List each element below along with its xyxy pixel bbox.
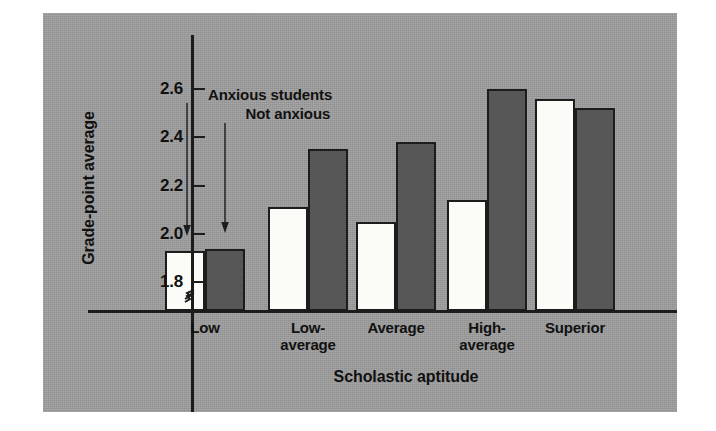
xtick-label-average-line1: Average: [346, 319, 446, 336]
bar-low-average-anxious: [268, 207, 308, 311]
xtick-label-low-average-line1: Low-: [258, 319, 358, 336]
legend: Anxious students Not anxious: [208, 85, 332, 123]
y-tick-label-2-0: 2.0: [139, 224, 183, 244]
bar-low-average-not-anxious: [308, 149, 348, 311]
leader-arrow-not-anxious-icon: [217, 123, 233, 235]
y-tick-label-2-4: 2.4: [139, 127, 183, 147]
y-tick-mark-2-4: [194, 136, 205, 138]
xtick-label-high-average-line1: High-: [437, 319, 537, 336]
y-tick-label-2-2: 2.2: [139, 176, 183, 196]
xtick-label-high-average: High- average: [437, 319, 537, 353]
x-axis-title: Scholastic aptitude: [191, 368, 621, 386]
y-tick-label-1-8: 1.8: [139, 272, 183, 292]
bar-superior-not-anxious: [575, 108, 615, 311]
chart-panel: Low Low- average Average High- average S…: [43, 13, 677, 412]
xtick-label-low-line1: Low: [155, 319, 255, 336]
bar-high-average-not-anxious: [487, 89, 527, 311]
y-axis-title: Grade-point average: [80, 98, 98, 278]
bar-group-container: [43, 13, 677, 412]
leader-arrow-anxious-icon: [179, 103, 195, 238]
xtick-label-average: Average: [346, 319, 446, 336]
y-tick-mark-1-8: [194, 281, 205, 283]
bar-average-not-anxious: [396, 142, 436, 311]
bar-average-anxious: [356, 222, 396, 311]
y-tick-label-2-6: 2.6: [139, 79, 183, 99]
chart-figure: Low Low- average Average High- average S…: [0, 0, 716, 431]
y-tick-mark-2-0: [194, 233, 205, 235]
xtick-label-high-average-line2: average: [437, 336, 537, 353]
y-tick-mark-2-2: [194, 185, 205, 187]
bar-low-not-anxious: [205, 249, 245, 312]
y-axis-break-icon: [183, 288, 203, 304]
y-tick-mark-2-6: [194, 88, 205, 90]
xtick-label-superior-line1: Superior: [525, 319, 625, 336]
legend-item-not-anxious: Not anxious: [208, 104, 332, 123]
x-axis-line: [88, 310, 677, 313]
xtick-label-low: Low: [155, 319, 255, 336]
xtick-label-low-average-line2: average: [258, 336, 358, 353]
xtick-label-low-average: Low- average: [258, 319, 358, 353]
xtick-label-superior: Superior: [525, 319, 625, 336]
bar-high-average-anxious: [447, 200, 487, 311]
legend-item-anxious-students: Anxious students: [208, 85, 332, 104]
bar-superior-anxious: [535, 99, 575, 311]
